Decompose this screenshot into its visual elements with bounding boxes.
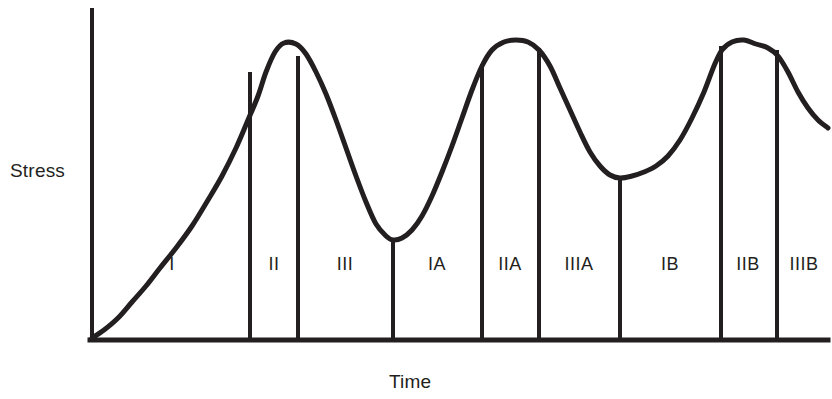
stress-curve-line: [92, 40, 828, 338]
stage-label-iiia: IIIA: [564, 254, 593, 275]
stage-label-iia: IIA: [498, 254, 522, 275]
stress-time-figure: Stress Time IIIIIIIAIIAIIIAIBIIBIIIB: [0, 0, 832, 399]
stage-label-iii: III: [337, 254, 354, 275]
y-axis-title: Stress: [10, 160, 65, 182]
stage-divider-group: [250, 46, 777, 340]
stage-label-iib: IIB: [736, 254, 760, 275]
chart-plot-area: [0, 0, 832, 399]
x-axis-title: Time: [389, 371, 431, 393]
stage-label-ia: IA: [428, 254, 446, 275]
stage-label-ib: IB: [661, 254, 679, 275]
stage-label-ii: II: [268, 254, 279, 275]
stage-label-i: I: [169, 254, 175, 275]
stage-label-iiib: IIIB: [789, 254, 818, 275]
